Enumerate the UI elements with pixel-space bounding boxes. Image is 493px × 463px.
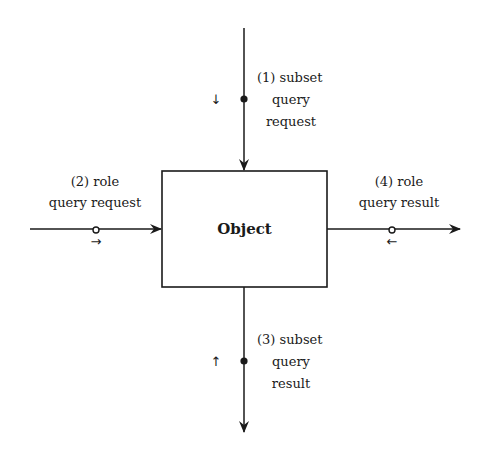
flow-1-subset-query-request: ↓ (1) subset query request [211,28,324,170]
filled-dot-marker-icon [240,357,247,364]
flow-3-subset-query-result: ↑ (3) subset query result [211,287,324,432]
open-circle-marker-icon [389,227,395,233]
flow-2-label-line-1: (2) role [71,174,120,189]
right-arrow-icon: → [91,234,102,249]
flow-3-label-line-2: query [272,354,311,369]
flow-1-label-line-3: request [266,114,317,129]
up-arrow-icon: ↑ [211,354,222,369]
flow-1-label-line-2: query [272,92,311,107]
flow-3-label-line-3: result [272,376,311,391]
flow-4-label-line-2: query result [359,195,440,210]
filled-dot-marker-icon [240,95,247,102]
flow-4-label-line-1: (4) role [375,174,424,189]
left-arrow-icon: ← [387,234,398,249]
object-box: Object [162,171,327,287]
flow-2-label-line-2: query request [49,195,142,210]
object-label: Object [217,220,272,238]
flow-3-label-line-1: (3) subset [257,332,323,347]
object-query-diagram: Object ↓ (1) subset query request → (2) … [0,0,493,463]
flow-2-role-query-request: → (2) role query request [30,174,161,249]
down-arrow-icon: ↓ [211,92,222,107]
flow-1-label-line-1: (1) subset [257,70,323,85]
flow-4-role-query-result: ← (4) role query result [327,174,460,249]
open-circle-marker-icon [93,227,99,233]
